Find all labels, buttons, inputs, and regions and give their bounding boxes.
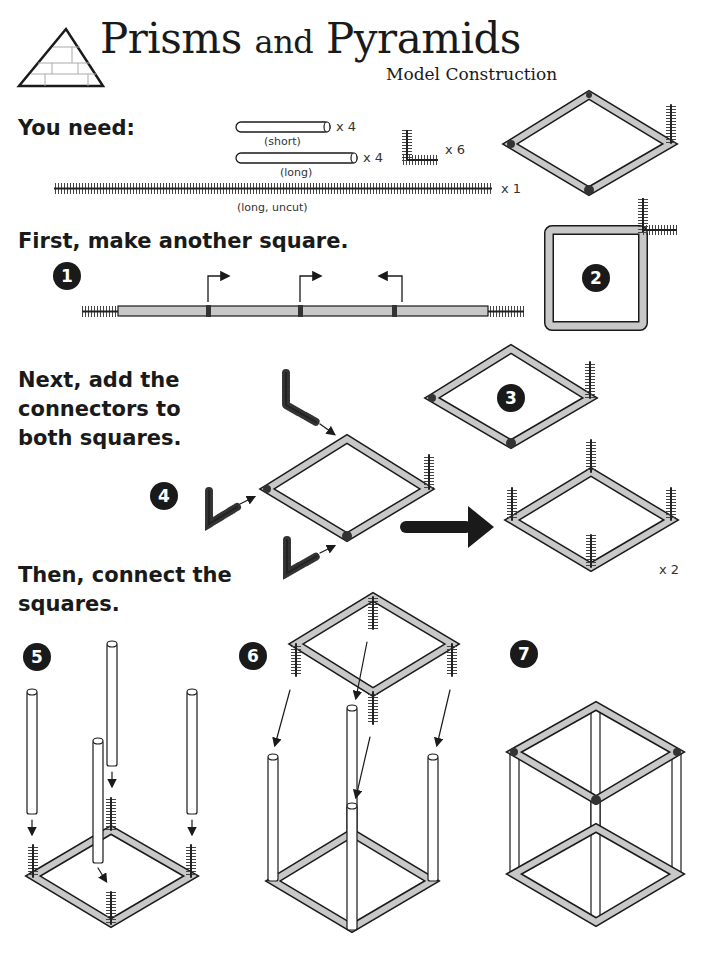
pyramid-brick-icon — [19, 29, 103, 86]
step-7-badge: 7 — [510, 640, 538, 668]
long-pipe-cleaner-icon — [54, 183, 492, 194]
svg-text:4: 4 — [158, 486, 170, 506]
svg-text:6: 6 — [247, 646, 259, 666]
svg-text:3: 3 — [505, 388, 517, 408]
pipe-cleaner-connector-icon — [402, 130, 438, 165]
step-4-badge: 4 — [150, 482, 178, 510]
step-7-cube — [510, 706, 681, 922]
section-2-heading: Next, add the connectors to both squares… — [18, 366, 182, 453]
step-1-badge: 1 — [53, 262, 81, 290]
materials-heading: You need: — [18, 114, 135, 143]
page-title: Prisms and Pyramids — [100, 14, 521, 63]
svg-text:1: 1 — [61, 266, 73, 286]
step-1-chain — [82, 276, 524, 317]
section-1-heading: First, make another square. — [18, 227, 348, 256]
long-straw-icon — [236, 153, 357, 163]
connector-qty: x 6 — [445, 142, 465, 157]
step-6-badge: 6 — [239, 642, 267, 670]
svg-text:7: 7 — [518, 644, 530, 664]
pipe-cleaner-label: (long, uncut) — [237, 201, 308, 214]
instruction-diagram: 1 2 3 4 — [0, 0, 702, 955]
step-2-square: 2 — [549, 198, 677, 326]
pipe-cleaner-qty: x 1 — [501, 181, 521, 196]
svg-text:5: 5 — [31, 647, 43, 667]
result-qty: x 2 — [659, 562, 679, 577]
long-straw-qty: x 4 — [363, 150, 383, 165]
step-6-assembly — [268, 597, 457, 930]
short-straw-qty: x 4 — [336, 119, 356, 134]
page-subtitle: Model Construction — [386, 64, 557, 84]
svg-text:2: 2 — [590, 268, 602, 288]
long-straw-label: (long) — [280, 166, 312, 179]
step-4-result-square — [507, 440, 676, 567]
short-straw-icon — [236, 122, 330, 132]
step-5-assembly — [27, 641, 197, 924]
example-square — [507, 92, 676, 195]
step-3-square: 3 — [428, 349, 595, 448]
step-5-badge: 5 — [23, 643, 51, 671]
big-right-arrow — [400, 521, 472, 533]
step-4-assembly — [209, 373, 494, 573]
section-3-heading: Then, connect the squares. — [18, 561, 232, 619]
short-straw-label: (short) — [264, 135, 301, 148]
